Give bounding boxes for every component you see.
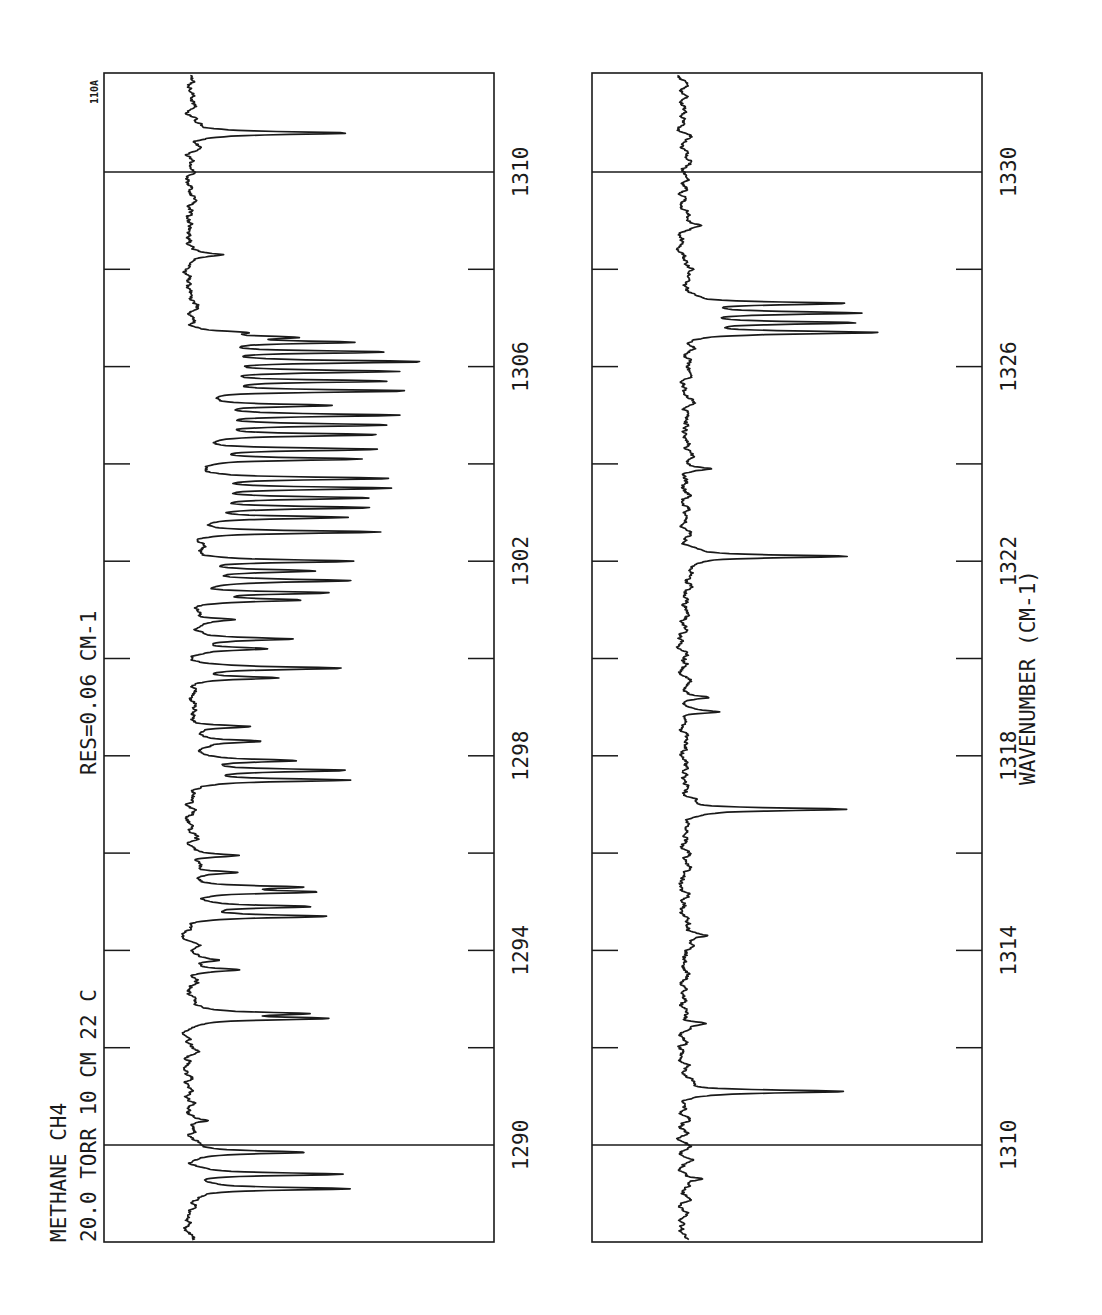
tick-label: 1290 xyxy=(509,1120,533,1171)
plate-id: 110A xyxy=(89,80,100,104)
left-panel-frame xyxy=(104,73,494,1242)
tick-label: 1294 xyxy=(509,925,533,976)
tick-label: 1302 xyxy=(509,536,533,587)
right-spectrum-trace xyxy=(677,76,878,1240)
right-panel-ticks xyxy=(592,172,982,1145)
sample-title: METHANE CH4 xyxy=(47,1103,71,1242)
left-panel-ticks xyxy=(104,172,494,1145)
tick-label: 1330 xyxy=(997,147,1021,198)
tick-label: 1326 xyxy=(997,341,1021,392)
left-spectrum-trace xyxy=(182,76,420,1240)
right-panel: 131013141318132213261330 xyxy=(592,73,1021,1242)
tick-label: 1310 xyxy=(997,1120,1021,1171)
left-axis-tick-labels: 129012941298130213061310 xyxy=(509,147,533,1171)
spectrum-chart: 129012941298130213061310 131013141318132… xyxy=(0,0,1102,1315)
sample-conditions: 20.0 TORR 10 CM 22 C xyxy=(77,989,101,1242)
resolution-label: RES=0.06 CM-1 xyxy=(77,611,101,775)
tick-label: 1306 xyxy=(509,341,533,392)
tick-label: 1298 xyxy=(509,731,533,782)
right-panel-frame xyxy=(592,73,982,1242)
tick-label: 1310 xyxy=(509,147,533,198)
left-panel: 129012941298130213061310 xyxy=(104,73,533,1242)
x-axis-title: WAVENUMBER (CM-1) xyxy=(1016,570,1040,785)
tick-label: 1314 xyxy=(997,925,1021,976)
